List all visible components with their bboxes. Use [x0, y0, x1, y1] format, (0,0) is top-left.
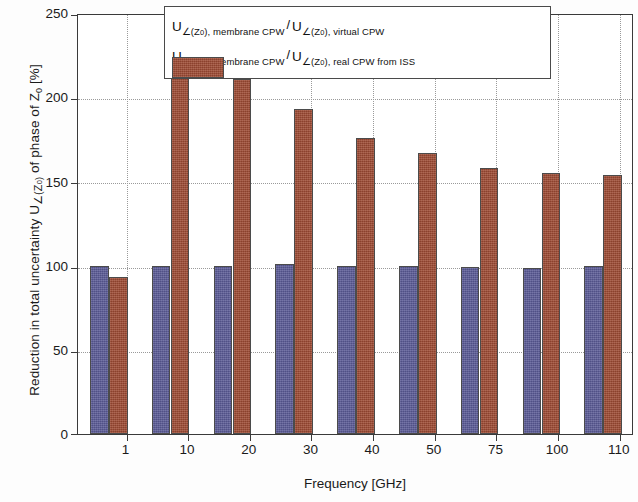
x-tick-mark-30: [311, 434, 312, 441]
x-tick-label-10: 10: [157, 442, 217, 457]
legend-sub2-post-a: ), virtual CPW: [324, 26, 384, 37]
x-tick-label-50: 50: [404, 442, 464, 457]
legend-u2-a: U: [292, 19, 302, 34]
legend-sub2-pre-a: ∠(Z: [302, 26, 320, 37]
bar-20ghz-series1: [214, 266, 233, 434]
y-tick-label-100: 100: [22, 259, 68, 274]
y-tick-label-0: 0: [22, 427, 68, 442]
bar-10ghz-series2: [171, 52, 190, 434]
x-tick-mark-10: [188, 434, 189, 441]
y-axis-title: Reduction in total uncertainty U∠(Z0) of…: [27, 20, 49, 440]
x-tick-mark-75: [496, 434, 497, 441]
bar-100ghz-series2: [542, 173, 561, 434]
bar-75ghz-series2: [480, 168, 499, 434]
bar-50ghz-series1: [399, 266, 418, 434]
legend-label-virtual-cpw: U∠(Z0), membrane CPW/U∠(Z0), virtual CPW: [172, 18, 384, 36]
y-tick-mark-50: [71, 352, 78, 353]
x-tick-label-40: 40: [342, 442, 402, 457]
x-tick-label-110: 110: [589, 442, 638, 457]
bar-1ghz-series1: [90, 266, 109, 434]
bar-50ghz-series2: [418, 153, 437, 434]
y-tick-mark-150: [71, 183, 78, 184]
y-tick-mark-100: [71, 268, 78, 269]
y-tick-mark-0: [71, 434, 78, 435]
bar-30ghz-series2: [294, 109, 313, 434]
legend-entry-virtual-cpw: U∠(Z0), membrane CPW/U∠(Z0), virtual CPW: [172, 12, 544, 42]
legend-entry-real-cpw-iss: U∠(Z0), membrane CPW/U∠(Z0), real CPW fr…: [172, 42, 544, 72]
legend-slash-a: /: [284, 17, 292, 32]
bar-1ghz-series2: [109, 277, 128, 434]
x-tick-mark-40: [373, 434, 374, 441]
bar-20ghz-series2: [233, 79, 252, 434]
legend-u2-b: U: [292, 49, 302, 64]
legend-sub2-post-b: ), real CPW from ISS: [324, 56, 415, 67]
y-tick-mark-200: [71, 99, 78, 100]
x-axis-title: Frequency [GHz]: [77, 476, 633, 491]
x-tick-mark-1: [127, 434, 128, 441]
x-tick-mark-110: [620, 434, 621, 441]
x-tick-mark-20: [250, 434, 251, 441]
chart-legend: U∠(Z0), membrane CPW/U∠(Z0), virtual CPW…: [164, 6, 551, 79]
y-tick-label-150: 150: [22, 175, 68, 190]
bar-110ghz-series2: [603, 175, 622, 434]
bar-75ghz-series1: [461, 267, 480, 434]
y-axis-title-units: [%]: [27, 64, 42, 88]
bar-110ghz-series1: [584, 266, 603, 434]
gridline-200: [78, 99, 632, 100]
y-tick-label-50: 50: [22, 343, 68, 358]
bar-40ghz-series1: [337, 266, 356, 434]
y-axis-title-prefix: Reduction in total uncertainty U: [27, 205, 42, 396]
bar-10ghz-series1: [152, 266, 171, 434]
legend-slash-b: /: [284, 47, 292, 62]
y-tick-label-250: 250: [22, 6, 68, 21]
legend-sub1-pre-a: ∠(Z: [182, 26, 200, 37]
x-tick-mark-50: [435, 434, 436, 441]
y-tick-label-200: 200: [22, 90, 68, 105]
legend-swatch-brown: [172, 57, 224, 78]
x-tick-mark-100: [558, 434, 559, 441]
bar-30ghz-series1: [275, 264, 294, 434]
x-tick-label-30: 30: [280, 442, 340, 457]
legend-u1-a: U: [172, 19, 182, 34]
bar-chart-figure: Reduction in total uncertainty U∠(Z0) of…: [0, 0, 638, 502]
x-tick-label-75: 75: [465, 442, 525, 457]
legend-sub1-post-a: ), membrane CPW: [204, 26, 284, 37]
x-tick-label-100: 100: [527, 442, 587, 457]
x-tick-label-20: 20: [219, 442, 279, 457]
y-tick-mark-250: [71, 15, 78, 16]
bar-100ghz-series1: [523, 268, 542, 434]
legend-sub2-pre-b: ∠(Z: [302, 56, 320, 67]
y-axis-title-mid: of phase of Z: [27, 93, 42, 177]
bar-40ghz-series2: [356, 138, 375, 434]
x-tick-label-1: 1: [96, 442, 156, 457]
